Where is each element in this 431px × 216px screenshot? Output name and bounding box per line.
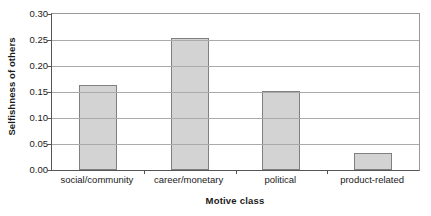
- x-axis-tick-label: career/monetary: [154, 174, 223, 185]
- x-axis-tick-label: social/community: [60, 174, 133, 185]
- x-axis-tick-label: product-related: [340, 174, 404, 185]
- gridline: [52, 118, 419, 119]
- y-axis-tick-label: 0.25: [20, 34, 48, 45]
- plot-area: [51, 13, 420, 171]
- bar: [171, 38, 209, 170]
- y-axis-tick-label: 0.30: [20, 8, 48, 19]
- y-axis-title-text: Selfishness of others: [6, 37, 17, 135]
- x-axis-title: Motive class: [51, 195, 419, 206]
- y-axis-tick-labels: 0.000.050.100.150.200.250.30: [20, 0, 48, 216]
- y-axis-tick-label: 0.00: [20, 164, 48, 175]
- x-axis-tick-label: political: [265, 174, 297, 185]
- x-axis-tick-labels: social/communitycareer/monetarypolitical…: [51, 174, 419, 190]
- gridline: [52, 144, 419, 145]
- y-axis-tick-label: 0.20: [20, 60, 48, 71]
- gridline: [52, 92, 419, 93]
- y-axis-tick-mark: [47, 66, 51, 67]
- bar: [354, 153, 392, 170]
- y-axis-tick-label: 0.05: [20, 138, 48, 149]
- y-axis-tick-mark: [47, 40, 51, 41]
- bar: [262, 91, 300, 170]
- y-axis-tick-mark: [47, 144, 51, 145]
- y-axis-tick-mark: [47, 170, 51, 171]
- y-axis-tick-label: 0.15: [20, 86, 48, 97]
- gridline: [52, 66, 419, 67]
- y-axis-title: Selfishness of others: [2, 0, 20, 172]
- gridline: [52, 40, 419, 41]
- y-axis-tick-mark: [47, 92, 51, 93]
- y-axis-tick-label: 0.10: [20, 112, 48, 123]
- bar-chart: Selfishness of others 0.000.050.100.150.…: [0, 0, 431, 216]
- y-axis-tick-mark: [47, 118, 51, 119]
- bar: [79, 85, 117, 170]
- y-axis-tick-mark: [47, 14, 51, 15]
